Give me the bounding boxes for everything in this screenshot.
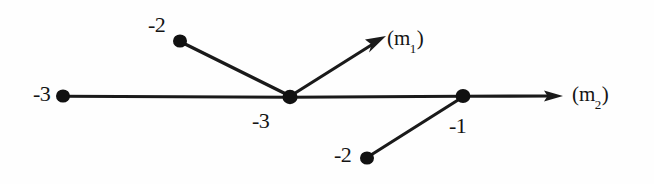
node-label-bottom: -2 [334, 144, 351, 166]
node-label-left: -3 [33, 83, 50, 105]
vector-label-m2: (m2) [572, 84, 609, 108]
vector-m2-open: (m [572, 82, 595, 106]
vector-m1-subscript: 1 [410, 41, 417, 56]
node-label-right: -1 [449, 115, 466, 137]
edge-top-to-center [181, 42, 290, 96]
diagram-canvas [0, 0, 654, 184]
node-left [56, 89, 70, 102]
node-bottom [360, 151, 374, 164]
vector-label-m1: (m1) [387, 28, 424, 52]
node-top [173, 34, 187, 47]
vector-diagram-figure: -3 -2 -3 -1 -2 (m1) (m2) [0, 0, 654, 184]
node-label-center: -3 [252, 110, 269, 132]
edge-center-to-right [290, 96, 463, 97]
node-center [282, 90, 297, 104]
arrow-m1-shaft [292, 44, 373, 95]
edge-bottom-to-right [367, 98, 462, 158]
arrowhead-m1 [365, 36, 386, 53]
node-right [456, 89, 471, 103]
vector-m1-close: ) [417, 26, 424, 50]
edge-left-to-center [63, 96, 290, 97]
node-label-top: -2 [148, 14, 165, 36]
vector-m1-open: (m [387, 26, 410, 50]
vector-m2-close: ) [602, 82, 609, 106]
vector-m2-subscript: 2 [595, 97, 602, 112]
